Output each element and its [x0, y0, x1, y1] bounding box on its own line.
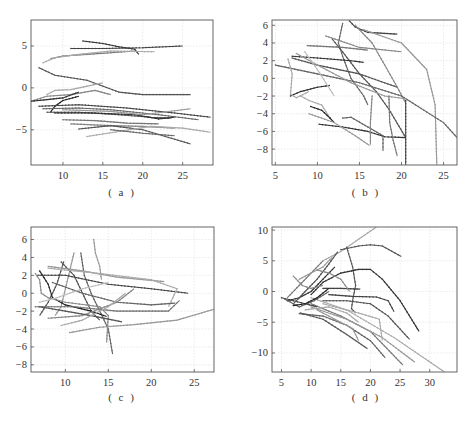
track-point: [68, 302, 70, 304]
track-point: [69, 95, 71, 97]
track-point: [61, 275, 63, 277]
track-point: [307, 292, 309, 294]
track-point: [371, 105, 373, 107]
track-point: [40, 100, 42, 102]
track-point: [64, 306, 66, 308]
track-point: [96, 134, 98, 136]
track-point: [100, 276, 102, 278]
track-point: [186, 94, 188, 96]
track-point: [390, 84, 392, 86]
track-point: [370, 331, 372, 333]
track-point: [122, 295, 124, 297]
track-point: [291, 57, 293, 59]
track-point: [155, 310, 157, 312]
track-point: [405, 113, 407, 115]
track-point: [177, 113, 179, 115]
track-point: [409, 348, 411, 350]
track-point: [81, 259, 83, 261]
track-point: [371, 78, 373, 80]
track-point: [327, 312, 329, 314]
track-point: [62, 109, 64, 111]
track-point: [71, 316, 73, 318]
track-point: [129, 111, 131, 113]
track-point: [122, 276, 124, 278]
track-point: [161, 118, 163, 120]
track-point: [124, 114, 126, 116]
track-point: [307, 274, 309, 276]
track-point: [405, 103, 407, 105]
track-point: [65, 284, 67, 286]
track-point: [332, 294, 334, 296]
track-point: [411, 320, 413, 322]
track-point: [297, 69, 299, 71]
track-point: [379, 318, 381, 320]
track-point: [89, 41, 91, 43]
track-point: [147, 51, 149, 53]
track-point: [401, 351, 403, 353]
track-point: [328, 294, 330, 296]
track-point: [94, 245, 96, 247]
track-point: [172, 297, 174, 299]
track-point: [46, 99, 48, 101]
track-point: [157, 289, 159, 291]
track-point: [149, 47, 151, 49]
track-point: [322, 294, 324, 296]
track-point: [372, 90, 374, 92]
track-point: [116, 130, 118, 132]
track-point: [435, 141, 437, 143]
track-point: [329, 300, 331, 302]
track-point: [393, 143, 395, 145]
track-point: [110, 310, 112, 312]
track-point: [133, 303, 135, 305]
track-point: [62, 285, 64, 287]
track-point: [332, 46, 334, 48]
track-point: [60, 269, 62, 271]
track-point: [318, 286, 320, 288]
x-tick-label: 10: [312, 170, 323, 181]
track-point: [310, 288, 312, 290]
track-point: [391, 50, 393, 52]
track-point: [312, 63, 314, 65]
track-point: [85, 104, 87, 106]
track-point: [335, 254, 337, 256]
track-point: [291, 55, 293, 57]
track-point: [391, 39, 393, 41]
track-point: [70, 77, 72, 79]
track-point: [148, 116, 150, 118]
track-point: [46, 94, 48, 96]
track-point: [97, 90, 99, 92]
track-point: [129, 113, 131, 115]
track-point: [102, 43, 104, 45]
track-point: [362, 32, 364, 34]
track-point: [181, 117, 183, 119]
track-point: [61, 302, 63, 304]
track-point: [352, 338, 354, 340]
track-point: [144, 51, 146, 53]
trajectory-line: [31, 92, 79, 101]
track-point: [80, 307, 82, 309]
track-point: [80, 79, 82, 81]
track-point: [116, 126, 118, 128]
track-point: [342, 127, 344, 129]
track-point: [412, 54, 414, 56]
track-point: [86, 301, 88, 303]
track-point: [65, 310, 67, 312]
track-point: [345, 127, 347, 129]
track-point: [382, 330, 384, 332]
track-point: [394, 93, 396, 95]
track-point: [345, 47, 347, 49]
track-point: [116, 276, 118, 278]
track-point: [99, 269, 101, 271]
track-point: [164, 310, 166, 312]
track-point: [161, 112, 163, 114]
track-point: [177, 139, 179, 141]
track-point: [395, 120, 397, 122]
track-point: [397, 254, 399, 256]
track-point: [382, 278, 384, 280]
track-point: [98, 281, 100, 283]
track-point: [405, 116, 407, 118]
track-point: [85, 293, 87, 295]
track-point: [338, 42, 340, 44]
track-point: [398, 97, 400, 99]
track-point: [340, 251, 342, 253]
